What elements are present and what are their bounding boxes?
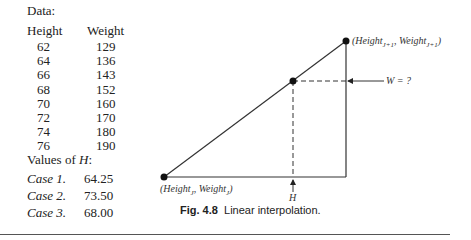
interpolation-line (164, 41, 346, 177)
point-lower (161, 174, 168, 181)
w-label: W = ? (386, 75, 411, 86)
caption-text: Linear interpolation. (224, 204, 321, 216)
figure-number: Fig. 4.8 (180, 204, 218, 216)
upper-point-label: (HeightJ+1, WeightJ+1) (352, 35, 442, 49)
bottom-rule (0, 234, 450, 235)
h-label: H (288, 192, 297, 203)
point-upper (343, 38, 350, 45)
lower-point-label: (HeightJ, WeightJ) (160, 183, 233, 197)
figure-caption: Fig. 4.8 Linear interpolation. (180, 204, 321, 216)
point-interpolated (290, 78, 297, 85)
